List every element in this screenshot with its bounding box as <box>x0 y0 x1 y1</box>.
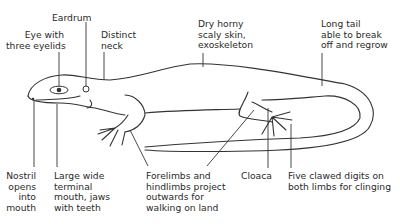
label-neck: Distinct neck <box>101 30 136 51</box>
label-limbs: Forelimbs and hindlimbs project outwards… <box>146 171 226 213</box>
lizard-diagram: Eardrum Eye with three eyelids Distinct … <box>0 0 400 224</box>
label-tail: Long tail able to break off and regrow <box>321 19 388 51</box>
label-cloaca: Cloaca <box>241 171 272 182</box>
label-eye: Eye with three eyelids <box>6 30 64 51</box>
label-mouth: Large wide terminal mouth, jaws with tee… <box>54 171 110 213</box>
label-skin: Dry horny scaly skin, exoskeleton <box>198 19 253 51</box>
label-digits: Five clawed digits on both limbs for cli… <box>288 171 391 192</box>
label-nostril: Nostril opens into mouth <box>0 171 36 213</box>
label-eardrum: Eardrum <box>52 13 91 24</box>
